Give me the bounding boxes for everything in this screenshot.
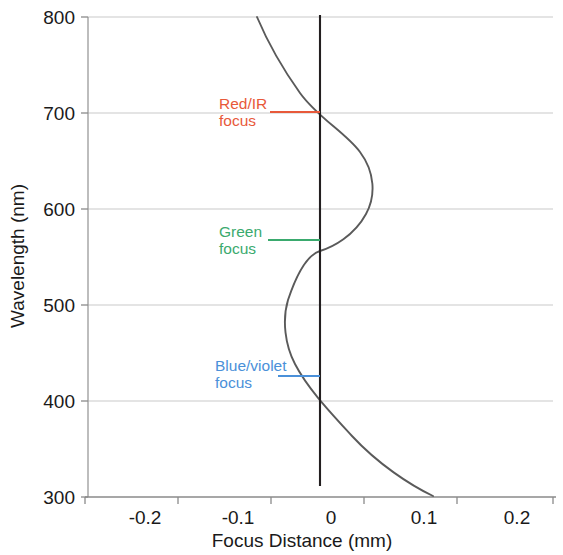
blue-violet-focus-label-line2: focus — [215, 374, 287, 391]
y-tick-label-700: 700 — [5, 103, 75, 125]
x-tick-label-0: 0 — [291, 507, 371, 529]
y-axis-ticks — [81, 17, 88, 497]
red-ir-focus-label-line1: Red/IR — [219, 95, 267, 112]
plot-area — [0, 0, 563, 555]
x-axis-ticks — [85, 497, 553, 504]
blue-violet-focus-annotation: Blue/violet focus — [215, 357, 287, 391]
green-focus-annotation: Green focus — [219, 223, 262, 257]
y-tick-label-300: 300 — [5, 487, 75, 509]
y-tick-label-400: 400 — [5, 391, 75, 413]
y-axis-title: Wavelength (nm) — [7, 171, 29, 341]
green-focus-label-line1: Green — [219, 223, 262, 240]
chart-canvas: 800 700 600 500 400 300 -0.2 -0.1 0 0.1 … — [0, 0, 563, 555]
blue-violet-focus-label-line1: Blue/violet — [215, 357, 287, 374]
x-tick-label-neg0-2: -0.2 — [105, 507, 185, 529]
x-tick-label-0-1: 0.1 — [384, 507, 464, 529]
red-ir-focus-annotation: Red/IR focus — [219, 95, 267, 129]
x-tick-label-0-2: 0.2 — [477, 507, 557, 529]
green-focus-label-line2: focus — [219, 240, 262, 257]
y-tick-label-800: 800 — [5, 7, 75, 29]
x-tick-label-neg0-1: -0.1 — [198, 507, 278, 529]
focus-shift-curve — [257, 17, 433, 496]
red-ir-focus-label-line2: focus — [219, 112, 267, 129]
x-axis-title: Focus Distance (mm) — [152, 530, 452, 552]
